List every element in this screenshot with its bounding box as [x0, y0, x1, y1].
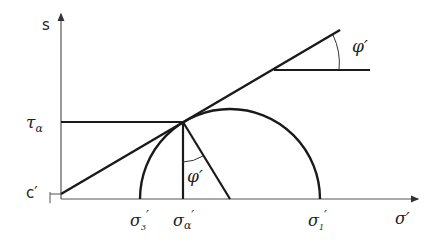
sigma3-label: σ3′ — [130, 208, 149, 232]
tau-label: τα — [26, 112, 43, 135]
sigma-alpha-label: σα′ — [173, 208, 194, 232]
y-axis-label: s — [42, 16, 50, 34]
sigma1-label: σ1′ — [308, 208, 327, 232]
phi-inner-label: φ′ — [187, 166, 203, 186]
mohr-circle-diagram: s τα c′ σ3′ σα′ σ1′ σ′ φ′ φ′ — [0, 0, 446, 243]
phi-arc-top — [333, 35, 339, 70]
radius-line — [183, 122, 230, 199]
cohesion-label: c′ — [26, 184, 38, 202]
phi-top-label: φ′ — [352, 36, 368, 56]
x-axis-label: σ′ — [395, 209, 410, 228]
phi-arc-inner — [183, 156, 203, 162]
